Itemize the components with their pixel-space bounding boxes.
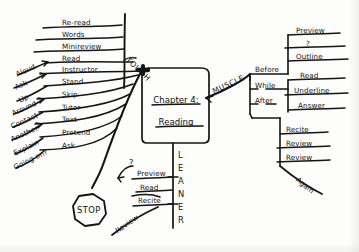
- tough-item-skip: Skip: [62, 91, 78, 98]
- muscle-before-item-question: ?: [306, 40, 310, 47]
- leaner-letter-e2: E: [178, 202, 183, 212]
- muscle-phase-while: While: [255, 82, 276, 89]
- tough-item-words: Words: [62, 31, 85, 38]
- muscle-after-item-review1: Review: [286, 140, 312, 147]
- tough-item-text: Text: [62, 116, 77, 123]
- tough-item-tutor: Tutor: [62, 104, 81, 111]
- leaner-question-mark: ?: [129, 159, 133, 168]
- tough-item-read: Read: [62, 55, 80, 62]
- leaner-letter-n: N: [178, 189, 184, 199]
- leaner-letter-r: R: [178, 215, 184, 225]
- tough-item-stand: Stand: [62, 78, 83, 85]
- tough-item-minireview: Minireview: [62, 43, 102, 50]
- muscle-while-item-answer: Answer: [298, 102, 325, 109]
- center-title-line2: Reading: [142, 117, 210, 127]
- leaner-item-read: Read: [140, 184, 158, 191]
- muscle-before-item-outline: Outline: [296, 53, 323, 60]
- tough-item-ask: Ask: [62, 142, 75, 149]
- leaner-item-preview: Preview: [137, 170, 166, 177]
- mindmap-canvas: TOUGH Re-read Words Minireview Read Inst…: [0, 0, 359, 252]
- stop-sign-label: STOP: [77, 205, 101, 215]
- muscle-after-item-recite: Recite: [286, 126, 309, 133]
- leaner-item-recite: Recite: [138, 197, 161, 204]
- leaner-letter-l: L: [178, 150, 183, 160]
- leaner-letter-e: E: [178, 163, 183, 173]
- tough-item-re-read: Re-read: [62, 19, 91, 26]
- tough-item-pretend: Pretend: [62, 129, 90, 136]
- muscle-after-item-review2: Review: [286, 154, 312, 161]
- muscle-before-item-preview: Preview: [296, 27, 325, 34]
- leaner-letter-a: A: [178, 176, 184, 186]
- muscle-phase-after: After: [255, 97, 273, 104]
- muscle-while-item-underline: Underline: [294, 87, 330, 94]
- tough-item-instructor: Instructor: [62, 66, 98, 73]
- muscle-phase-before: Before: [255, 66, 279, 73]
- center-title-line1: Chapter 4:: [142, 95, 210, 105]
- muscle-while-item-read: Read: [300, 72, 318, 79]
